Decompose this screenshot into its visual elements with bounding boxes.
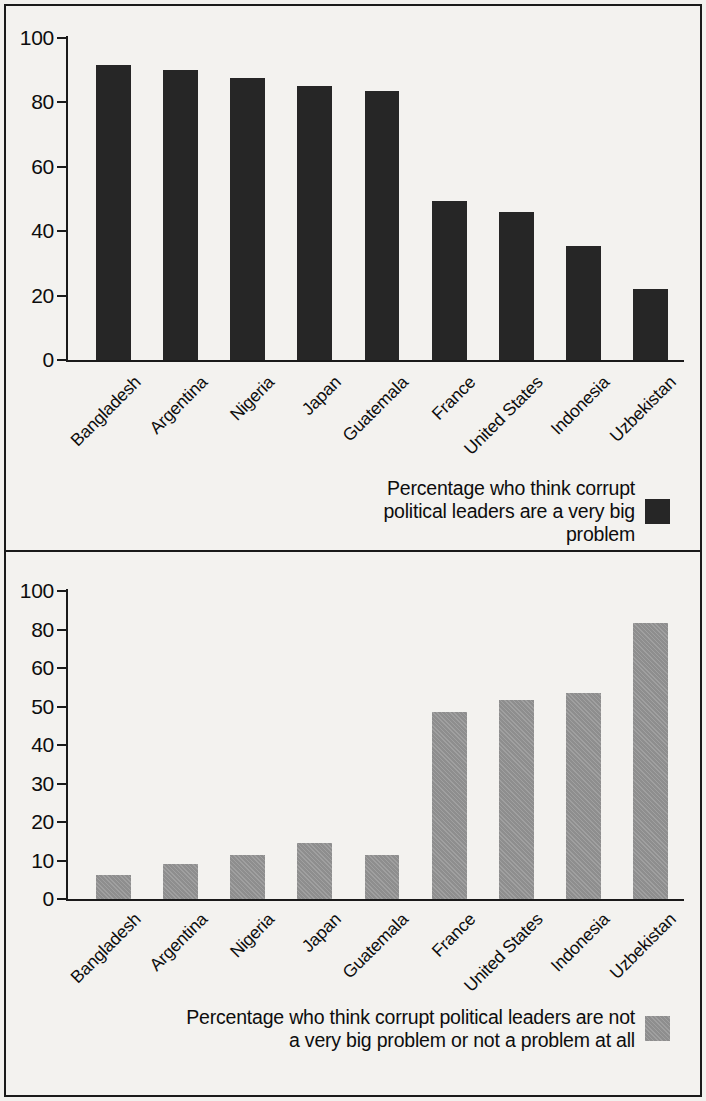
y-tick-label: 20: [31, 284, 54, 308]
y-tick-label: 40: [31, 219, 54, 243]
x-axis-line-top: [66, 360, 684, 362]
x-category-label: Indonesia: [547, 372, 614, 439]
y-tick-label: 40: [31, 733, 54, 757]
legend-swatch-grey-icon: [645, 1016, 670, 1041]
bar: [365, 855, 400, 899]
bar: [633, 289, 668, 360]
y-tick: [57, 166, 68, 168]
y-tick: [57, 706, 68, 708]
bar: [432, 712, 467, 899]
y-tick: [57, 230, 68, 232]
y-tick: [57, 295, 68, 297]
bar: [566, 246, 601, 360]
y-tick: [57, 359, 68, 361]
y-tick: [57, 590, 68, 592]
bar: [365, 91, 400, 360]
legend-bottom: Percentage who think corrupt political l…: [30, 1006, 670, 1052]
legend-top-label: Percentage who think corrupt political l…: [330, 477, 635, 545]
y-tick: [57, 821, 68, 823]
plot-area-bottom: 100806050403020100: [66, 589, 684, 901]
x-axis-line-bottom: [66, 899, 684, 901]
y-tick-label: 10: [31, 849, 54, 873]
bar: [499, 700, 534, 899]
bar: [96, 65, 131, 360]
y-tick-label: 30: [31, 772, 54, 796]
plot-area-top: 100806040200: [66, 36, 684, 362]
y-tick: [57, 667, 68, 669]
chart-panel-top: 100806040200 BangladeshArgentinaNigeriaJ…: [0, 0, 706, 548]
bar: [499, 212, 534, 360]
x-category-label: France: [428, 372, 481, 425]
bar: [566, 693, 601, 899]
y-tick-label: 0: [43, 887, 54, 911]
y-tick-label: 0: [43, 348, 54, 372]
y-tick-label: 80: [31, 90, 54, 114]
y-tick: [57, 629, 68, 631]
bar: [163, 70, 198, 360]
x-category-label: Argentina: [145, 909, 212, 976]
bar: [230, 855, 265, 899]
y-tick: [57, 744, 68, 746]
y-axis-line-top: [66, 36, 68, 362]
bar: [432, 201, 467, 360]
y-tick: [57, 898, 68, 900]
x-category-label: Argentina: [145, 372, 212, 439]
x-category-label: Bangladesh: [66, 909, 145, 988]
x-category-label: Uzbekistan: [606, 372, 681, 447]
bar: [297, 843, 332, 899]
y-tick-label: 100: [20, 26, 54, 50]
y-tick: [57, 860, 68, 862]
y-tick-label: 100: [20, 579, 54, 603]
x-category-label: Indonesia: [547, 909, 614, 976]
x-category-label: France: [428, 909, 481, 962]
bar: [163, 864, 198, 899]
chart-panel-bottom: 100806050403020100 BangladeshArgentinaNi…: [0, 551, 706, 1101]
y-tick: [57, 783, 68, 785]
y-tick-label: 50: [31, 695, 54, 719]
y-tick-label: 60: [31, 656, 54, 680]
y-tick: [57, 101, 68, 103]
x-category-label: Japan: [298, 909, 346, 957]
bar: [633, 623, 668, 899]
y-tick-label: 60: [31, 155, 54, 179]
x-category-label: Japan: [298, 372, 346, 420]
x-category-label: Guatemala: [339, 372, 413, 446]
x-category-label: Bangladesh: [66, 372, 145, 451]
bar: [230, 78, 265, 360]
x-category-label: Guatemala: [339, 909, 413, 983]
y-tick-label: 20: [31, 810, 54, 834]
legend-bottom-label: Percentage who think corrupt political l…: [186, 1006, 635, 1052]
y-tick: [57, 37, 68, 39]
bar: [297, 86, 332, 360]
figure: 100806040200 BangladeshArgentinaNigeriaJ…: [0, 0, 706, 1101]
x-category-label: Uzbekistan: [606, 909, 681, 984]
y-tick-label: 80: [31, 618, 54, 642]
x-category-label: Nigeria: [226, 909, 279, 962]
legend-swatch-dark-icon: [645, 499, 670, 524]
legend-top: Percentage who think corrupt political l…: [330, 477, 670, 545]
bar: [96, 875, 131, 899]
x-category-label: Nigeria: [226, 372, 279, 425]
